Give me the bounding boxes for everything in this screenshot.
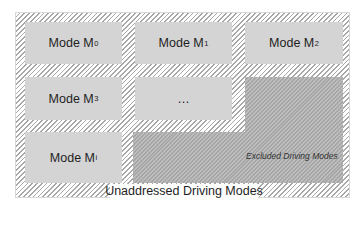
mode-subscript: 1 [204,39,208,48]
mode-m1-box: Mode M1 [135,22,232,64]
mode-subscript: i [95,153,97,162]
mode-subscript: 2 [315,39,319,48]
mode-label: Mode M [269,36,314,50]
mode-label: Mode M [159,36,204,50]
ellipsis-label: … [177,92,190,106]
mode-mi-box: Mode Mi [25,132,122,183]
mode-m3-box: Mode M3 [25,77,122,120]
mode-subscript: 0 [94,39,98,48]
excluded-modes-label: Excluded Driving Modes [246,151,336,161]
mode-ellipsis-box: … [135,77,232,120]
unaddressed-modes-label: Unaddressed Driving Modes [110,184,258,198]
mode-label: Mode M [49,36,94,50]
mode-label: Mode M [49,92,94,106]
mode-m2-box: Mode M2 [245,22,343,64]
mode-subscript: 3 [94,94,98,103]
mode-label: Mode M [50,151,95,165]
mode-m0-box: Mode M0 [25,22,122,64]
